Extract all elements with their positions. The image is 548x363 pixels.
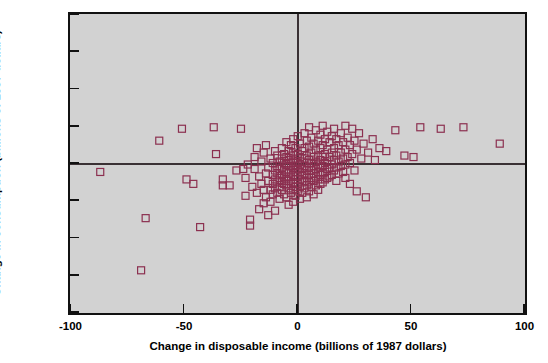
data-point	[196, 223, 203, 230]
data-point	[459, 123, 466, 130]
data-point	[212, 150, 219, 157]
data-point	[353, 187, 360, 194]
x-tick-label-100: 100	[515, 320, 534, 332]
data-point	[341, 122, 348, 129]
data-point	[251, 153, 258, 160]
x-tick-label--50: -50	[176, 320, 193, 332]
data-point	[271, 147, 278, 154]
data-point	[353, 146, 360, 153]
data-point	[400, 152, 407, 159]
x-tick-label--100: -100	[59, 320, 82, 332]
data-point	[437, 125, 444, 132]
data-point	[391, 126, 398, 133]
data-point	[257, 158, 264, 165]
data-point	[344, 134, 351, 141]
data-point	[189, 180, 196, 187]
data-point	[137, 266, 144, 273]
data-point	[155, 137, 162, 144]
data-point	[296, 140, 303, 147]
data-point	[375, 144, 382, 151]
data-point	[416, 123, 423, 130]
data-point	[369, 135, 376, 142]
data-point	[350, 137, 357, 144]
data-point	[364, 149, 371, 156]
data-point	[330, 125, 337, 132]
data-point	[360, 140, 367, 147]
data-point	[262, 141, 269, 148]
data-point	[251, 165, 258, 172]
data-point	[312, 126, 319, 133]
x-tick-label-50: 50	[405, 320, 418, 332]
data-point	[350, 166, 357, 173]
data-point	[232, 166, 239, 173]
data-point	[496, 140, 503, 147]
data-point	[239, 165, 246, 172]
data-point	[271, 207, 278, 214]
data-point	[210, 123, 217, 130]
data-point	[253, 144, 260, 151]
data-point	[355, 129, 362, 136]
data-point	[183, 175, 190, 182]
data-point	[237, 125, 244, 132]
data-point	[96, 168, 103, 175]
y-axis-title: Change in consumption (billions of 1987 …	[0, 30, 2, 296]
data-point	[382, 147, 389, 154]
data-point	[266, 198, 273, 205]
data-point	[346, 141, 353, 148]
data-point	[362, 193, 369, 200]
data-point	[242, 174, 249, 181]
scatter-plot-figure: Change in consumption (billions of 1987 …	[0, 0, 548, 363]
data-point	[178, 125, 185, 132]
data-point	[264, 211, 271, 218]
x-tick-label-0: 0	[294, 320, 300, 332]
data-point	[242, 192, 249, 199]
data-point	[371, 156, 378, 163]
data-point	[244, 161, 251, 168]
data-point	[226, 181, 233, 188]
data-point	[348, 125, 355, 132]
x-axis-title: Change in disposable income (billions of…	[149, 340, 446, 352]
data-point-layer	[70, 14, 525, 313]
data-point	[260, 149, 267, 156]
plot-area	[68, 12, 527, 315]
data-point	[255, 172, 262, 179]
data-point	[266, 155, 273, 162]
data-point	[357, 155, 364, 162]
data-point	[142, 214, 149, 221]
data-point	[410, 153, 417, 160]
